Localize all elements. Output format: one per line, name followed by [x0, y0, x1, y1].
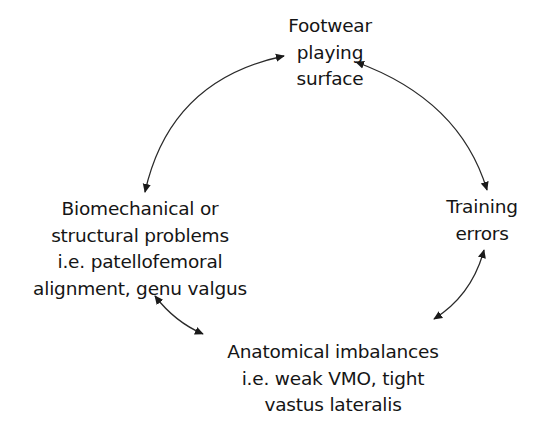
node-anatomical-imbalances: Anatomical imbalances i.e. weak VMO, tig… — [227, 339, 438, 419]
node-text-line: Footwear — [288, 13, 372, 40]
node-text-line: alignment, genu valgus — [33, 276, 247, 303]
node-text-line: structural problems — [33, 223, 247, 250]
node-text-line: errors — [446, 221, 517, 248]
node-text-line: surface — [288, 66, 372, 93]
node-text-line: i.e. weak VMO, tight — [227, 366, 438, 393]
node-text-line: playing — [288, 40, 372, 67]
node-text-line: Anatomical imbalances — [227, 339, 438, 366]
node-text-line: i.e. patellofemoral — [33, 249, 247, 276]
arrow-footwear-training — [356, 62, 487, 190]
arrow-biomechanical-footwear — [145, 56, 284, 192]
node-text-line: vastus lateralis — [227, 392, 438, 419]
node-text-line: Training — [446, 194, 517, 221]
node-text-line: Biomechanical or — [33, 196, 247, 223]
node-biomechanical-problems: Biomechanical or structural problems i.e… — [33, 196, 247, 302]
node-footwear-playing-surface: Footwear playing surface — [288, 13, 372, 93]
cycle-diagram: Footwear playing surface Training errors… — [0, 0, 547, 441]
node-training-errors: Training errors — [446, 194, 517, 247]
arrow-training-anatomical — [434, 250, 484, 319]
